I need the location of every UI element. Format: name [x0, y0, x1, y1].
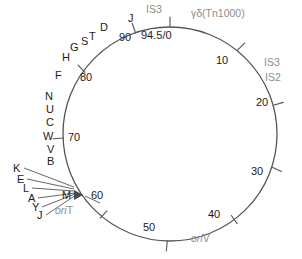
- gene-label-J-bottom: J: [37, 210, 43, 221]
- feature-label-IS2: IS2: [265, 72, 281, 83]
- tick-20: [274, 102, 284, 105]
- gene-label-J-top: J: [128, 13, 134, 24]
- coordinate-label-50: 50: [143, 222, 155, 233]
- coordinate-label-94-5-0: 94.5/0: [141, 30, 172, 41]
- gene-label-F: F: [55, 70, 62, 81]
- tick-60: [100, 211, 107, 218]
- gene-label-H: H: [62, 52, 70, 63]
- feature-label-IS3-top: IS3: [146, 4, 162, 15]
- gene-label-B: B: [47, 156, 54, 167]
- gene-label-M: M: [62, 190, 71, 201]
- tick-70: [53, 138, 63, 139]
- tick-90: [132, 23, 135, 33]
- gene-label-V: V: [47, 144, 54, 155]
- coordinate-label-80: 80: [80, 72, 92, 83]
- coordinate-label-60: 60: [91, 190, 103, 201]
- origin-label-oriV: oriV: [191, 233, 210, 244]
- tick-10: [238, 43, 245, 50]
- coordinate-label-10: 10: [216, 55, 228, 66]
- plasmid-circle: [63, 27, 277, 241]
- tick-40: [231, 216, 237, 224]
- origin-label-oriT-suffix: T: [67, 204, 73, 216]
- gene-label-S: S: [81, 36, 88, 47]
- gene-label-T: T: [89, 31, 96, 42]
- leader-line-K: [24, 168, 74, 187]
- tick-50: [166, 241, 167, 251]
- gene-label-C: C: [46, 117, 54, 128]
- tick-30: [272, 167, 281, 171]
- origin-label-oriV-suffix: V: [203, 232, 210, 244]
- circular-genetic-map: 94.5/0 90 10 20 30 40 50 60 70 80 J D T …: [0, 0, 302, 259]
- origin-label-oriV-prefix: ori: [191, 232, 203, 244]
- gene-label-N: N: [45, 91, 53, 102]
- coordinate-label-20: 20: [256, 97, 268, 108]
- coordinate-label-90: 90: [119, 32, 131, 43]
- origin-label-oriT: oriT: [55, 205, 73, 216]
- gene-label-G: G: [70, 42, 79, 53]
- origin-label-oriT-prefix: ori: [55, 204, 67, 216]
- coordinate-ticks: [53, 17, 283, 251]
- gene-label-U: U: [46, 104, 54, 115]
- oriT-transfer-arrow-icon: [74, 190, 83, 200]
- feature-label-gamma-delta-Tn1000: γδ(Tn1000): [191, 8, 245, 19]
- coordinate-label-30: 30: [251, 166, 263, 177]
- gene-label-W: W: [43, 131, 53, 142]
- gene-label-D: D: [100, 22, 108, 33]
- coordinate-label-70: 70: [68, 132, 80, 143]
- coordinate-label-40: 40: [208, 209, 220, 220]
- feature-label-IS3-right: IS3: [264, 57, 280, 68]
